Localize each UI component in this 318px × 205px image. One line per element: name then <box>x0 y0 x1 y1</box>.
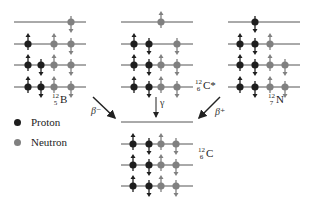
neutron-spin-up-icon <box>266 76 273 93</box>
neutron-spin-up-icon <box>266 33 273 50</box>
neutron-spin-up-icon <box>50 33 57 50</box>
label-nitrogen-12: 127N <box>268 93 284 107</box>
neutron-spin-down-icon <box>67 81 74 98</box>
proton-spin-down-icon <box>251 59 258 76</box>
neutron-spin-up-icon <box>157 175 164 192</box>
legend-neutron: Neutron <box>14 136 67 148</box>
neutron-spin-down-icon <box>172 138 179 155</box>
neutron-spin-up-icon <box>157 54 164 71</box>
beta-plus-label: β⁺ <box>215 106 225 117</box>
neutron-spin-up-icon <box>157 133 164 150</box>
neutron-spin-down-icon <box>172 159 179 176</box>
neutron-spin-down-icon <box>173 81 180 98</box>
neutron-spin-down-icon <box>281 59 288 76</box>
proton-spin-up-icon <box>236 54 243 71</box>
neutron-spin-up-icon <box>50 54 57 71</box>
neutron-spin-up-icon <box>157 76 164 93</box>
nucleus-B12 <box>14 16 86 98</box>
neutron-spin-down-icon <box>67 38 74 55</box>
proton-spin-down-icon <box>145 38 152 55</box>
proton-spin-up-icon <box>24 76 31 93</box>
neutron-spin-up-icon <box>266 54 273 71</box>
proton-spin-up-icon <box>24 33 31 50</box>
neutron-spin-down-icon <box>67 16 74 33</box>
proton-spin-up-icon <box>24 54 31 71</box>
gamma-label: γ <box>160 97 164 108</box>
proton-spin-up-icon <box>129 154 136 171</box>
label-boron-12: 125B <box>52 93 67 107</box>
proton-spin-up-icon <box>236 76 243 93</box>
proton-spin-down-icon <box>145 159 152 176</box>
proton-spin-down-icon <box>251 16 258 33</box>
neutron-spin-up-icon <box>50 76 57 93</box>
proton-spin-down-icon <box>145 59 152 76</box>
proton-spin-down-icon <box>251 81 258 98</box>
neutron-spin-down-icon <box>173 59 180 76</box>
neutron-dot-icon <box>14 139 21 146</box>
proton-spin-down-icon <box>37 81 44 98</box>
proton-spin-up-icon <box>130 76 137 93</box>
proton-spin-down-icon <box>251 38 258 55</box>
proton-spin-down-icon <box>145 138 152 155</box>
nucleus-C12star <box>121 11 193 98</box>
neutron-spin-down-icon <box>67 59 74 76</box>
neutron-spin-down-icon <box>173 38 180 55</box>
proton-spin-up-icon <box>130 33 137 50</box>
beta-minus-label: β⁻ <box>91 105 101 116</box>
proton-spin-down-icon <box>145 81 152 98</box>
label-carbon-12: 126C <box>198 147 213 161</box>
proton-spin-up-icon <box>130 54 137 71</box>
neutron-spin-up-icon <box>157 154 164 171</box>
legend-proton: Proton <box>14 116 60 128</box>
proton-spin-down-icon <box>37 59 44 76</box>
nucleus-N12 <box>228 16 300 98</box>
neutron-spin-down-icon <box>172 180 179 197</box>
neutron-spin-up-icon <box>157 11 164 28</box>
proton-dot-icon <box>14 119 21 126</box>
proton-spin-up-icon <box>129 175 136 192</box>
label-carbon-12-excited: 126C* <box>195 79 216 93</box>
nucleus-C12 <box>121 122 193 197</box>
proton-spin-up-icon <box>129 133 136 150</box>
proton-spin-up-icon <box>236 33 243 50</box>
proton-spin-down-icon <box>145 180 152 197</box>
